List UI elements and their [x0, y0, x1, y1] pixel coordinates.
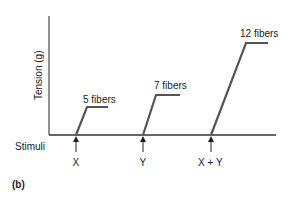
stimuli-label: Stimuli	[15, 141, 45, 152]
y-axis-label: Tension (g)	[33, 51, 44, 100]
response-label-12-fibers: 12 fibers	[240, 28, 278, 39]
response-label-7-fibers: 7 fibers	[154, 80, 187, 91]
tension-diagram: Tension (g) 5 fibers 7 fibers 12 fibers …	[0, 0, 293, 198]
stimulus-label-y: Y	[140, 157, 147, 168]
response-curve-12-fibers	[211, 43, 268, 135]
panel-label: (b)	[12, 179, 25, 190]
stimulus-label-x-plus-y: X + Y	[198, 157, 223, 168]
stimulus-label-x: X	[73, 157, 80, 168]
response-label-5-fibers: 5 fibers	[83, 94, 116, 105]
response-curve-5-fibers	[76, 107, 108, 135]
response-curve-7-fibers	[143, 95, 180, 135]
